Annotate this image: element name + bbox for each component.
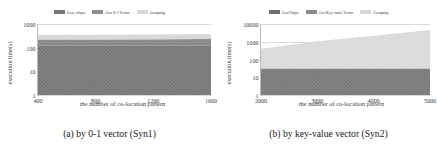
plot-area-panel-b: 10000 1000 100 10 1 [260, 24, 430, 96]
area-genclique-panel-b [261, 69, 430, 95]
area-grouping-panel-a [38, 34, 211, 40]
legend-panel-b: GenClique Gen Key-value Vector Grouping [219, 6, 438, 18]
y-tick-1000: 1000 [23, 22, 35, 28]
legend-label-gen-0-1-vector: Gen 0-1 Vector [105, 10, 129, 15]
area-grouping-panel-b [261, 30, 430, 69]
y-tick-100: 100 [26, 46, 35, 52]
x-axis-title-panel-b: the number of co-location pattern [249, 100, 434, 108]
legend-swatch-gen-0-1-vector [92, 10, 103, 14]
y-tick-100-b: 100 [249, 58, 258, 64]
y-axis-title-text-a: execution time(s) [5, 32, 15, 94]
caption-panel-b: (b) by key-value vector (Syn2) [219, 128, 438, 140]
legend-item-gen-key-value-vector: Gen Key-value Vector [306, 10, 354, 15]
legend-swatch-grouping-b [360, 10, 371, 14]
legend-swatch-gen-key-value-vector [306, 10, 317, 14]
legend-swatch-genclique [269, 10, 280, 14]
legend-item-gen-clique: Gen_clique [54, 10, 85, 15]
legend-panel-a: Gen_clique Gen 0-1 Vector Grouping [0, 6, 219, 18]
y-tick-1000-b: 1000 [246, 40, 258, 46]
x-axis-title-panel-a: the number of co-location pattern [30, 100, 215, 108]
y-axis-title-text-b: execution time(s) [224, 32, 234, 94]
y-tick-10-b: 10 [252, 75, 258, 81]
figure-container: Gen_clique Gen 0-1 Vector Grouping execu… [0, 0, 438, 153]
chart-panel-a: Gen_clique Gen 0-1 Vector Grouping execu… [0, 0, 219, 153]
legend-label-gen-key-value-vector: Gen Key-value Vector [319, 10, 354, 15]
legend-swatch-grouping [137, 10, 148, 14]
stacked-area-series-panel-a [38, 24, 211, 95]
stacked-area-series-panel-b [261, 24, 430, 95]
gridline-y-1: 1 [38, 95, 211, 96]
y-tick-10000: 10000 [243, 22, 258, 28]
plot-wrap-panel-a: execution time(s) 1000 100 10 1 [0, 18, 219, 110]
area-gen-clique-panel-a [38, 46, 211, 95]
legend-item-gen-0-1-vector: Gen 0-1 Vector [92, 10, 129, 15]
y-axis-title-panel-a: execution time(s) [0, 58, 41, 68]
y-tick-10: 10 [29, 69, 35, 75]
caption-panel-a: (a) by 0-1 vector (Syn1) [0, 128, 219, 140]
legend-label-genclique: GenClique [282, 10, 299, 15]
legend-item-grouping-b: Grouping [360, 10, 388, 15]
legend-label-grouping: Grouping [150, 10, 165, 15]
legend-swatch-gen-clique [54, 10, 65, 14]
plot-wrap-panel-b: execution time(s) 10000 1000 100 10 1 [219, 18, 438, 110]
legend-label-gen-clique: Gen_clique [67, 10, 85, 15]
chart-panel-b: GenClique Gen Key-value Vector Grouping … [219, 0, 438, 153]
legend-item-grouping: Grouping [137, 10, 165, 15]
plot-area-panel-a: 1000 100 10 1 [37, 24, 211, 96]
gridline-y-1-b: 1 [261, 95, 430, 96]
legend-label-grouping-b: Grouping [373, 10, 388, 15]
area-gen-0-1-vector-panel-a [38, 39, 211, 46]
legend-item-genclique: GenClique [269, 10, 299, 15]
